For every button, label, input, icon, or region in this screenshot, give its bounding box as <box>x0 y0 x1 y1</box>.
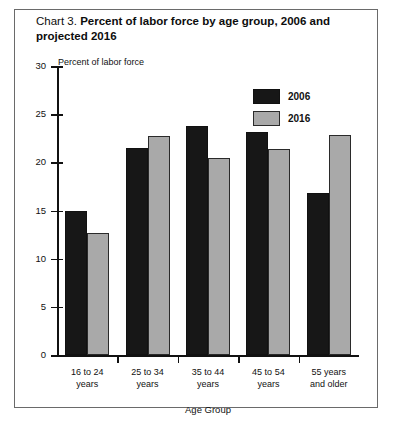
bar-2016-2 <box>208 158 230 355</box>
category-label-1: 25 to 34 years <box>117 366 177 390</box>
y-axis-tick: 10 <box>51 259 63 261</box>
x-axis-title: Age Group <box>57 404 359 415</box>
bar-2006-4 <box>307 193 329 355</box>
bar-2016-4 <box>329 135 351 355</box>
x-axis-line <box>57 355 359 357</box>
y-axis-tick-label: 5 <box>41 301 46 312</box>
y-axis-tick-label: 10 <box>35 253 46 264</box>
bar-2016-3 <box>268 149 290 355</box>
category-label-2: 35 to 44 years <box>178 366 238 390</box>
bar-2016-0 <box>87 233 109 355</box>
chart-figure: Chart 3. Percent of labor force by age g… <box>0 0 395 428</box>
y-axis-tick: 15 <box>51 211 63 213</box>
category-label-4: 55 years and older <box>299 366 359 390</box>
y-axis-tick: 30 <box>51 66 63 68</box>
x-axis-tick <box>117 355 119 363</box>
y-axis-tick-label: 15 <box>35 205 46 216</box>
y-axis-tick: 25 <box>51 114 63 116</box>
bar-2006-2 <box>186 126 208 355</box>
legend-item-2016: 2016 <box>253 111 310 126</box>
legend-swatch-2006 <box>253 89 280 104</box>
y-axis-tick-label: 25 <box>35 108 46 119</box>
y-axis-tick: 20 <box>51 162 63 164</box>
legend-label-2006: 2006 <box>288 91 310 102</box>
chart-legend: 2006 2016 <box>253 89 310 133</box>
x-axis-tick <box>178 355 180 363</box>
bar-2006-0 <box>65 211 87 355</box>
x-axis-tick <box>299 355 301 363</box>
y-axis-tick: 0 <box>51 355 63 357</box>
legend-swatch-2016 <box>253 111 280 126</box>
category-label-0: 16 to 24 years <box>57 366 117 390</box>
bar-2006-3 <box>246 132 268 355</box>
chart-title-lead: Chart 3. <box>36 15 77 27</box>
bar-2016-1 <box>148 136 170 355</box>
legend-label-2016: 2016 <box>288 113 310 124</box>
chart-title-main: Percent of labor force by age group, 200… <box>36 15 330 42</box>
category-label-3: 45 to 54 years <box>238 366 298 390</box>
plot-area: 302520151050 16 to 24 years25 to 34 year… <box>57 66 359 355</box>
y-axis-tick: 5 <box>51 307 63 309</box>
bar-2006-1 <box>126 148 148 355</box>
x-axis-tick <box>238 355 240 363</box>
legend-item-2006: 2006 <box>253 89 310 104</box>
chart-title: Chart 3. Percent of labor force by age g… <box>36 14 356 44</box>
y-axis-tick-label: 20 <box>35 156 46 167</box>
y-axis-tick-label: 30 <box>35 60 46 71</box>
y-axis-tick-label: 0 <box>41 349 46 360</box>
